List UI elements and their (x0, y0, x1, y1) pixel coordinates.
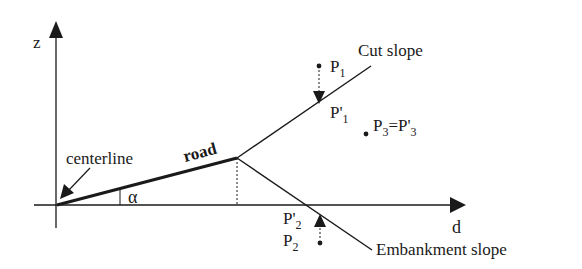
angle-alpha-label: α (128, 187, 138, 207)
point-p1-prime-label: P'1 (330, 103, 349, 126)
z-axis-arrow-icon (49, 21, 63, 38)
road-label: road (181, 139, 219, 166)
p2-projection-arrow-icon (314, 214, 326, 227)
point-p2-prime-label: P'2 (283, 209, 302, 232)
point-p3-dot (364, 132, 369, 137)
centerline-pointer (68, 168, 90, 191)
road-cross-section-diagram: z d road α centerline Cut slope Embankme… (0, 0, 582, 269)
z-axis-label: z (33, 33, 41, 52)
point-p1-dot (317, 64, 322, 69)
embankment-slope-line (237, 158, 372, 250)
cut-slope-line (237, 66, 371, 158)
embankment-slope-label: Embankment slope (376, 240, 507, 259)
point-p2-dot (318, 241, 323, 246)
point-p1-label: P1 (330, 57, 345, 80)
d-axis-arrow-icon (450, 197, 466, 213)
d-axis-label: d (452, 217, 461, 237)
centerline-label: centerline (66, 149, 133, 168)
cut-slope-label: Cut slope (358, 41, 423, 60)
d-axis (34, 197, 466, 213)
p1-projection-arrow-icon (313, 91, 325, 104)
point-p3-label: P3=P'3 (373, 116, 417, 139)
point-p2-label: P2 (283, 231, 298, 254)
